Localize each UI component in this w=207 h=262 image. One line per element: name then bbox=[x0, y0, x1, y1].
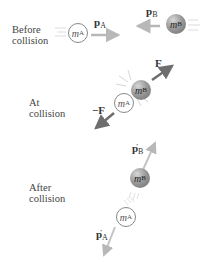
vector-label-pA: pA bbox=[94, 16, 106, 30]
mass-a-at: mA bbox=[114, 93, 134, 113]
vector-subscript: A bbox=[100, 21, 106, 30]
mass-subscript: A bbox=[125, 99, 130, 107]
mass-b-at: mB bbox=[131, 80, 151, 100]
phase-label-before: Before collision bbox=[12, 24, 48, 46]
motion-lines-b-before bbox=[188, 20, 200, 30]
phase-label-line1: At bbox=[29, 97, 65, 108]
mass-subscript: A bbox=[127, 213, 132, 221]
mass-subscript: B bbox=[177, 20, 182, 28]
mass-b-after: mB bbox=[130, 168, 150, 188]
mass-a-before: mA bbox=[68, 23, 88, 43]
mass-symbol: m bbox=[135, 85, 142, 96]
vector-subscript: B bbox=[152, 10, 157, 19]
phase-label-line1: Before bbox=[12, 24, 48, 35]
motion-lines-a-after bbox=[124, 197, 134, 205]
vector-label-pB-after: p′B bbox=[132, 142, 143, 156]
momentum-arrow-b-after bbox=[142, 143, 155, 172]
motion-lines-b-after bbox=[129, 192, 139, 200]
phase-label-at: At collision bbox=[29, 97, 65, 119]
phase-label-after: After collision bbox=[29, 182, 65, 204]
mass-symbol: m bbox=[72, 28, 79, 39]
vector-subscript: A bbox=[102, 233, 108, 242]
vector-subscript: B bbox=[138, 147, 143, 156]
motion-lines-a-before bbox=[55, 28, 66, 36]
mass-symbol: m bbox=[120, 212, 127, 223]
phase-label-line2: collision bbox=[29, 108, 65, 119]
mass-symbol: m bbox=[134, 173, 141, 184]
mass-symbol: m bbox=[118, 98, 125, 109]
vector-symbol: F bbox=[98, 104, 105, 116]
mass-b-before: mB bbox=[166, 14, 186, 34]
mass-subscript: A bbox=[79, 29, 84, 37]
mass-symbol: m bbox=[170, 19, 177, 30]
vector-label-pA-after: p′A bbox=[96, 228, 108, 242]
vector-label-negF: −F bbox=[92, 104, 105, 116]
mass-a-after: mA bbox=[116, 207, 136, 227]
vector-label-pB: pB bbox=[146, 5, 157, 19]
vector-symbol: F bbox=[155, 57, 162, 69]
vector-label-F: F bbox=[155, 57, 162, 69]
mass-subscript: B bbox=[142, 86, 147, 94]
mass-subscript: B bbox=[141, 174, 146, 182]
phase-label-line2: collision bbox=[12, 35, 48, 46]
phase-label-line1: After bbox=[29, 182, 65, 193]
phase-label-line2: collision bbox=[29, 193, 65, 204]
